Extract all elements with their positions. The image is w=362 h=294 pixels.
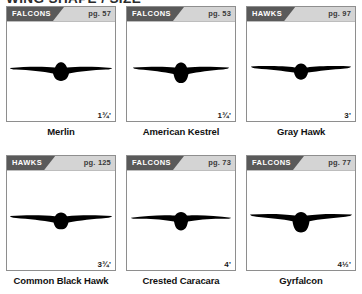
category-tab[interactable]: FALCONS bbox=[127, 7, 184, 21]
panel-body: 3' bbox=[247, 22, 355, 122]
category-tab[interactable]: FALCONS bbox=[7, 7, 64, 21]
panel-header: HAWKS pg. 125 bbox=[7, 156, 115, 171]
silhouette-cell[interactable]: FALCONS pg. 53 1¾' American Kestrel bbox=[126, 6, 238, 137]
wingspan-measurement: 1¾' bbox=[97, 111, 111, 120]
common-black-hawk-silhouette bbox=[7, 171, 115, 271]
panel-body: 3¾' bbox=[7, 171, 115, 271]
page-reference[interactable]: pg. 77 bbox=[328, 156, 351, 170]
silhouette-cell[interactable]: FALCONS pg. 57 1¾' Merlin bbox=[6, 6, 118, 137]
wingspan-measurement: 3' bbox=[344, 111, 351, 120]
panel-body: 1¾' bbox=[127, 22, 235, 122]
silhouette-cell[interactable]: FALCONS pg. 73 4' Crested Caracara bbox=[126, 155, 238, 286]
american-kestrel-silhouette bbox=[127, 22, 235, 122]
silhouette-panel[interactable]: HAWKS pg. 97 3' bbox=[246, 6, 356, 122]
category-tab[interactable]: FALCONS bbox=[127, 156, 184, 170]
silhouette-cell[interactable]: HAWKS pg. 125 3¾' Common Black Hawk bbox=[6, 155, 118, 286]
species-name: Merlin bbox=[6, 126, 116, 137]
species-name: Crested Caracara bbox=[119, 275, 243, 286]
panel-header: FALCONS pg. 77 bbox=[247, 156, 355, 171]
panel-header: FALCONS pg. 53 bbox=[127, 7, 235, 22]
species-name: American Kestrel bbox=[126, 126, 236, 137]
silhouette-cell[interactable]: FALCONS pg. 77 4½' Gyrfalcon bbox=[246, 155, 358, 286]
species-name: Gyrfalcon bbox=[246, 275, 356, 286]
gray-hawk-silhouette bbox=[247, 22, 355, 122]
category-tab[interactable]: HAWKS bbox=[7, 156, 55, 170]
crested-caracara-silhouette bbox=[127, 171, 235, 271]
category-tab[interactable]: FALCONS bbox=[247, 156, 304, 170]
wingspan-measurement: 3¾' bbox=[97, 260, 111, 269]
silhouette-panel[interactable]: HAWKS pg. 125 3¾' bbox=[6, 155, 116, 271]
wingspan-measurement: 4½' bbox=[337, 260, 351, 269]
page-reference[interactable]: pg. 125 bbox=[84, 156, 111, 170]
page-reference[interactable]: pg. 57 bbox=[88, 7, 111, 21]
silhouette-cell[interactable]: HAWKS pg. 97 3' Gray Hawk bbox=[246, 6, 358, 137]
species-name: Gray Hawk bbox=[246, 126, 356, 137]
gyrfalcon-silhouette bbox=[247, 171, 355, 271]
panel-body: 1¾' bbox=[7, 22, 115, 122]
silhouette-panel[interactable]: FALCONS pg. 73 4' bbox=[126, 155, 236, 271]
panel-header: FALCONS pg. 73 bbox=[127, 156, 235, 171]
page-reference[interactable]: pg. 73 bbox=[208, 156, 231, 170]
species-name: Common Black Hawk bbox=[0, 275, 123, 286]
panel-header: FALCONS pg. 57 bbox=[7, 7, 115, 22]
panel-header: HAWKS pg. 97 bbox=[247, 7, 355, 22]
page-reference[interactable]: pg. 97 bbox=[328, 7, 351, 21]
wingspan-measurement: 1¾' bbox=[217, 111, 231, 120]
category-tab[interactable]: HAWKS bbox=[247, 7, 295, 21]
panel-body: 4½' bbox=[247, 171, 355, 271]
panel-body: 4' bbox=[127, 171, 235, 271]
silhouette-panel[interactable]: FALCONS pg. 53 1¾' bbox=[126, 6, 236, 122]
merlin-silhouette bbox=[7, 22, 115, 122]
silhouette-grid: FALCONS pg. 57 1¾' Merlin FALCONS pg. 53 bbox=[0, 0, 362, 294]
page-reference[interactable]: pg. 53 bbox=[208, 7, 231, 21]
silhouette-panel[interactable]: FALCONS pg. 77 4½' bbox=[246, 155, 356, 271]
wingspan-measurement: 4' bbox=[224, 260, 231, 269]
silhouette-panel[interactable]: FALCONS pg. 57 1¾' bbox=[6, 6, 116, 122]
